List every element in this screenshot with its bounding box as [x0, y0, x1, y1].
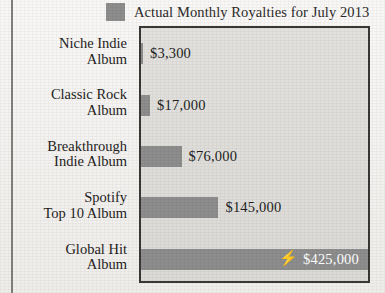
bar-spotify-top-10-album[interactable] — [141, 197, 218, 218]
bar-value-breakthrough-indie-album: $76,000 — [189, 148, 238, 165]
bar-value-niche-indie-album: $3,300 — [150, 45, 191, 62]
category-label-classic-rock-album: Classic Rock Album — [14, 77, 133, 128]
category-label-line2: Album — [87, 52, 127, 68]
category-label-spotify-top-10-album: Spotify Top 10 Album — [14, 180, 133, 231]
bar-value-text: $425,000 — [303, 251, 359, 268]
bar-breakthrough-indie-album[interactable] — [141, 146, 182, 167]
category-label-line1: Classic Rock — [51, 87, 127, 103]
category-label-line2: Album — [87, 257, 127, 273]
legend-swatch-royalties — [106, 3, 125, 21]
plot-area: $3,300 $17,000 $76,000 $145,000 ⚡ $425,0… — [139, 26, 370, 283]
category-label-global-hit-album: Global Hit Album — [14, 232, 133, 283]
bar-rows: $3,300 $17,000 $76,000 $145,000 ⚡ $425,0… — [141, 28, 368, 281]
bar-value-global-hit-album: ⚡ $425,000 — [279, 251, 359, 268]
bar-niche-indie-album[interactable] — [141, 43, 143, 64]
category-label-niche-indie-album: Niche Indie Album — [14, 26, 133, 77]
bar-row-breakthrough-indie-album: $76,000 — [141, 131, 368, 182]
category-label-line2: Top 10 Album — [43, 206, 127, 222]
bar-row-global-hit-album: ⚡ $425,000 — [141, 234, 368, 285]
category-label-breakthrough-indie-album: Breakthrough Indie Album — [14, 129, 133, 180]
category-label-line2: Album — [87, 103, 127, 119]
y-axis-category-labels: Niche Indie Album Classic Rock Album Bre… — [14, 26, 133, 283]
lightning-bolt-icon: ⚡ — [279, 251, 298, 266]
legend-label-royalties: Actual Monthly Royalties for July 2013 — [134, 4, 369, 21]
chart-legend: Actual Monthly Royalties for July 2013 — [106, 1, 369, 23]
bar-row-spotify-top-10-album: $145,000 — [141, 182, 368, 233]
category-label-line1: Niche Indie — [59, 36, 127, 52]
category-label-line1: Spotify — [84, 190, 127, 206]
page-margin-rule — [11, 0, 13, 293]
bar-value-spotify-top-10-album: $145,000 — [225, 199, 281, 216]
bar-classic-rock-album[interactable] — [141, 95, 150, 116]
category-label-line1: Global Hit — [65, 242, 127, 258]
bar-row-niche-indie-album: $3,300 — [141, 28, 368, 79]
category-label-line2: Indie Album — [54, 154, 127, 170]
bar-row-classic-rock-album: $17,000 — [141, 79, 368, 130]
chart-page: Actual Monthly Royalties for July 2013 N… — [0, 0, 385, 293]
bar-value-classic-rock-album: $17,000 — [157, 97, 206, 114]
category-label-line1: Breakthrough — [47, 139, 127, 155]
